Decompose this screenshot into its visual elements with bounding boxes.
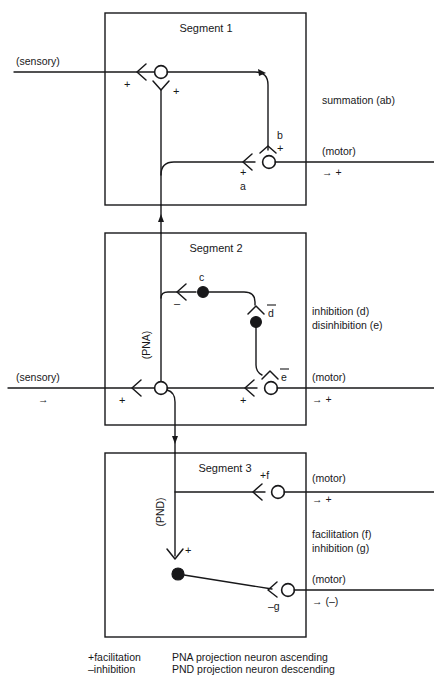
segment-2-neuron-c-label: c (199, 271, 204, 283)
segment-3-motor-1-sign: → + (312, 493, 332, 505)
segment-2-sign-plus: + (240, 394, 246, 406)
segment-2-annotation-2: disinhibition (e) (312, 319, 383, 331)
segment-3-neuron-g-label: –g (268, 600, 280, 612)
segment-2-sensory-arrow: → (38, 393, 49, 405)
segment-2-sensory-label: (sensory) (16, 371, 60, 383)
segment-2-neuron-d-axon (256, 327, 262, 375)
segment-1-motor-label: (motor) (322, 145, 356, 157)
segment-3-neuron-f-label: +f (260, 469, 269, 481)
segment-2-box (105, 233, 306, 425)
legend-inhibition: –inhibition (88, 663, 135, 675)
segment-2-annotation-1: inhibition (d) (312, 305, 369, 317)
segment-1-sign-b: + (277, 142, 283, 154)
segment-1-title: Segment 1 (179, 22, 232, 34)
circuit-diagram: Segment 1 (sensory) + + b + + a (motor) (0, 0, 434, 689)
segment-3-title: Segment 3 (198, 462, 251, 474)
figure-canvas: Segment 1 (sensory) + + b + + a (motor) (0, 0, 434, 689)
segment-1-motor-soma (263, 156, 276, 169)
segment-1-sign-input: + (124, 78, 130, 90)
segment-2-pna-label: (PNA) (140, 331, 152, 360)
segment-2-neuron-d-label: d (268, 307, 274, 319)
segment-1-motor-sign: → + (322, 166, 342, 178)
segment-2-motor-sign: → + (312, 393, 332, 405)
segment-1-neuron-b-label: b (277, 129, 283, 141)
segment-3-annotation-1: facilitation (f) (312, 528, 372, 540)
segment-2-title: Segment 2 (189, 242, 242, 254)
segment-2-neuron-c-axon (208, 292, 255, 305)
segment-1-box (105, 13, 306, 205)
segment-3-interneuron-axon (184, 575, 272, 589)
segment-2-motor-soma (265, 382, 278, 395)
segment-3-motor-2-label: (motor) (312, 573, 346, 585)
segment-2-neuron-e-label: e (281, 371, 287, 383)
segment-1-annotation: summation (ab) (322, 94, 395, 106)
segment-1-sensory-soma (155, 66, 168, 79)
segment-1-sign-descending: + (173, 85, 179, 97)
segment-3-interneuron-soma (172, 568, 184, 580)
segment-1-sensory-label: (sensory) (16, 55, 60, 67)
segment-2-sign-c: – (174, 297, 181, 309)
legend-pna: PNA projection neuron ascending (172, 651, 328, 663)
segment-2-neuron-c-soma (198, 287, 209, 298)
segment-2-sign-input: + (119, 394, 125, 406)
segment-2-motor-label: (motor) (312, 371, 346, 383)
segment-2-sensory-soma (155, 382, 168, 395)
segment-2-synapse-e (262, 371, 278, 379)
segment-3-annotation-2: inhibition (g) (312, 542, 369, 554)
segment-3-sign-interneuron: + (185, 544, 191, 556)
segment-3-pnd-label: (PND) (154, 497, 166, 526)
segment-1-neuron-a-label: a (240, 180, 246, 192)
segment-1-sign-a: + (240, 166, 246, 178)
segment-2-synapse-d (248, 306, 264, 314)
segment-3-motor-2-sign: → (–) (312, 595, 338, 607)
legend-pnd: PND projection neuron descending (172, 663, 335, 675)
segment-1-synapse-descending (153, 81, 169, 90)
pna-ascending-arrowhead (158, 214, 164, 222)
segment-3-motor-f-soma (272, 486, 285, 499)
segment-1-branch-b-axon (167, 72, 268, 150)
segment-3-motor-1-label: (motor) (312, 472, 346, 484)
legend-facilitation: +facilitation (88, 651, 141, 663)
segment-3-synapse-g (268, 582, 277, 597)
segment-2-neuron-d-soma (251, 317, 262, 328)
pnd-descending-arrowhead (172, 436, 178, 444)
segment-3-motor-g-soma (282, 584, 295, 597)
pnd-intersegment-axon (167, 390, 175, 453)
